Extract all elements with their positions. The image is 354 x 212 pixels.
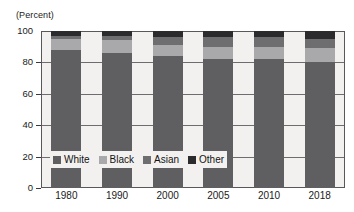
- legend-label: Asian: [154, 154, 179, 165]
- y-axis-tick-label: 0: [7, 182, 33, 193]
- bar-group: [254, 31, 284, 188]
- bar-segment: [153, 45, 183, 56]
- bar-segment: [254, 31, 284, 37]
- y-axis-tick-label: 40: [7, 119, 33, 130]
- legend-swatch-icon: [188, 156, 196, 164]
- bar-segment: [254, 59, 284, 188]
- y-axis-unit-label: (Percent): [16, 10, 54, 20]
- bar-segment: [102, 31, 132, 36]
- bar-group: [305, 31, 335, 188]
- bar-segment: [305, 48, 335, 62]
- bar-segment: [153, 37, 183, 45]
- x-axis-tick-label: 2000: [141, 190, 195, 201]
- legend-item[interactable]: Other: [188, 154, 224, 165]
- legend-swatch-icon: [143, 156, 151, 164]
- bar-segment: [51, 39, 81, 50]
- bar-segment: [254, 37, 284, 46]
- legend-swatch-icon: [53, 156, 61, 164]
- bar-segment: [305, 62, 335, 188]
- bar-segment: [102, 40, 132, 53]
- x-axis-tick-label: 1980: [39, 190, 93, 201]
- bar-segment: [51, 31, 81, 36]
- legend-label: Black: [110, 154, 134, 165]
- x-axis-tick-label: 2010: [242, 190, 296, 201]
- legend-swatch-icon: [99, 156, 107, 164]
- bar-segment: [203, 31, 233, 37]
- x-axis-tick-label: 2018: [293, 190, 347, 201]
- legend-label: Other: [199, 154, 224, 165]
- y-axis-tick-label: 60: [7, 88, 33, 99]
- bar-segment: [203, 37, 233, 46]
- legend-item[interactable]: White: [53, 154, 90, 165]
- bar-segment: [153, 56, 183, 188]
- y-axis-tick-label: 80: [7, 56, 33, 67]
- x-axis-tick-label: 1990: [90, 190, 144, 201]
- bar-segment: [51, 36, 81, 39]
- legend-item[interactable]: Black: [99, 154, 134, 165]
- y-axis-tick-label: 20: [7, 151, 33, 162]
- y-axis-tick-label: 100: [7, 25, 33, 36]
- legend-item[interactable]: Asian: [143, 154, 179, 165]
- x-axis-tick-label: 2005: [191, 190, 245, 201]
- bar-segment: [254, 47, 284, 60]
- bar-segment: [153, 31, 183, 37]
- bar-segment: [203, 59, 233, 188]
- chart-legend: WhiteBlackAsianOther: [50, 151, 227, 168]
- bar-segment: [203, 47, 233, 60]
- bar-segment: [305, 31, 335, 39]
- bar-segment: [102, 36, 132, 41]
- bar-segment: [305, 39, 335, 48]
- stacked-bar-chart: (Percent) 020406080100 19801990200020052…: [0, 0, 354, 212]
- legend-label: White: [64, 154, 90, 165]
- y-axis-tick-mark: [36, 188, 41, 189]
